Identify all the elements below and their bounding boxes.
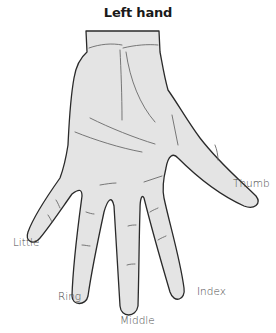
finger-label-ring: Ring xyxy=(58,290,81,302)
finger-label-index: Index xyxy=(197,285,226,297)
finger-label-little: Little xyxy=(13,236,39,248)
finger-label-thumb: Thumb xyxy=(233,177,270,189)
hand-outline xyxy=(27,31,258,315)
finger-label-middle: Middle xyxy=(120,314,155,326)
left-hand-illustration xyxy=(0,0,276,333)
